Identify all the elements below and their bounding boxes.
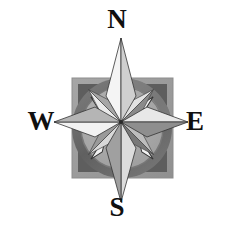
star-center-hub: [119, 120, 123, 124]
cardinal-label-west: W: [24, 108, 58, 135]
compass-rose-figure: N S W E: [0, 0, 234, 233]
cardinal-label-east: E: [178, 108, 212, 135]
cardinal-label-north: N: [0, 6, 234, 33]
cardinal-label-south: S: [0, 194, 234, 221]
